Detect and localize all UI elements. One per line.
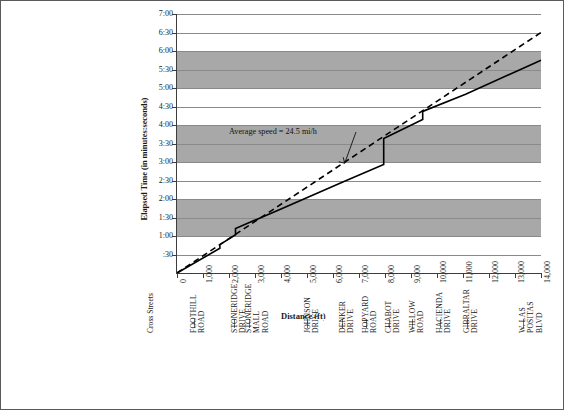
cross-streets-title: Cross Streets — [147, 293, 155, 333]
y-tick-label: 4:00 — [145, 121, 173, 129]
y-tick-label: 3:30 — [145, 140, 173, 148]
cross-street-label: W. LAS POSITAS BLVD — [519, 257, 544, 333]
y-tick-label: 4:30 — [145, 103, 173, 111]
plot-area — [177, 14, 541, 273]
cross-street-label: STONERIDGE MALL ROAD — [245, 257, 270, 333]
y-tick-label: 1:00 — [145, 232, 173, 240]
y-tick-label: 6:30 — [145, 29, 173, 37]
y-tick-mark — [172, 88, 177, 89]
y-tick-mark — [172, 255, 177, 256]
y-tick-label: 6:00 — [145, 47, 173, 55]
x-tick-mark — [359, 273, 360, 278]
x-tick-mark — [489, 273, 490, 278]
y-tick-label: 5:00 — [145, 84, 173, 92]
x-tick-label: 12,000 — [492, 261, 500, 283]
x-tick-mark — [177, 273, 178, 278]
cross-street-label: CHABOT DRIVE — [385, 257, 402, 333]
y-tick-mark — [172, 218, 177, 219]
x-tick-mark — [515, 273, 516, 278]
y-tick-mark — [172, 181, 177, 182]
data-lines — [177, 14, 541, 273]
y-tick-mark — [172, 107, 177, 108]
y-tick-label: 5:30 — [145, 66, 173, 74]
x-tick-label: 14,000 — [544, 261, 552, 283]
y-tick-mark — [172, 70, 177, 71]
cross-street-label: DENKER DRIVE — [339, 257, 356, 333]
y-tick-mark — [172, 14, 177, 15]
y-tick-label: 2:30 — [145, 177, 173, 185]
x-tick-mark — [333, 273, 334, 278]
x-tick-label: 1,000 — [206, 265, 214, 283]
y-tick-label: 1:30 — [145, 214, 173, 222]
y-tick-mark — [172, 33, 177, 34]
y-tick-mark — [172, 125, 177, 126]
x-tick-label: 0 — [180, 279, 188, 283]
observed-travel-line — [177, 60, 541, 273]
y-tick-label: 3:00 — [145, 158, 173, 166]
cross-street-label: JOHNSON DRIVE — [304, 257, 321, 333]
cross-street-label: HACIENDA DRIVE — [436, 257, 453, 333]
cross-street-label: GIBRALTAR DRIVE — [463, 257, 480, 333]
y-tick-label: 7:00 — [145, 10, 173, 18]
y-tick-mark — [172, 144, 177, 145]
cross-street-label: HOPYARD ROAD — [362, 257, 379, 333]
x-tick-mark — [229, 273, 230, 278]
average-speed-annotation: Average speed = 24.5 mi/h — [229, 127, 317, 136]
y-tick-label: :30 — [145, 251, 173, 259]
y-tick-mark — [172, 51, 177, 52]
chart-frame: Elapsed Time (in minutes:seconds) :301:0… — [0, 0, 564, 410]
y-tick-label: 2:00 — [145, 195, 173, 203]
x-tick-label: 4,000 — [284, 265, 292, 283]
cross-street-label: WILLOW ROAD — [409, 257, 426, 333]
cross-street-label: FOOTHILL ROAD — [190, 257, 207, 333]
average-speed-line — [177, 33, 541, 274]
x-tick-mark — [281, 273, 282, 278]
y-axis-tick-labels: :301:001:302:002:303:003:304:004:305:005… — [141, 1, 173, 411]
y-tick-mark — [172, 162, 177, 163]
y-tick-mark — [172, 199, 177, 200]
y-tick-mark — [172, 236, 177, 237]
